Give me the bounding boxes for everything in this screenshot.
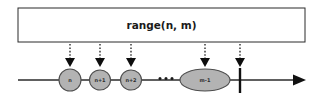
pointer-arrow-group xyxy=(65,44,245,67)
range-diagram: range(n, m) xyxy=(0,0,323,101)
pointer-arrow-m-minus-1 xyxy=(200,44,210,67)
pointer-arrowhead-icon xyxy=(235,58,245,67)
pointer-arrowhead-icon xyxy=(95,58,105,67)
ellipsis-dot xyxy=(171,77,174,80)
pointer-arrow-n xyxy=(65,44,75,67)
node-n: n xyxy=(59,69,81,91)
number-line-arrowhead-icon xyxy=(293,75,306,86)
range-box-label: range(n, m) xyxy=(126,19,196,31)
node-n-plus-1: n+1 xyxy=(90,70,111,90)
node-label: n+1 xyxy=(94,77,106,83)
pointer-arrow-n-plus-2 xyxy=(126,44,136,67)
pointer-arrowhead-icon xyxy=(65,58,75,67)
pointer-arrowhead-icon xyxy=(200,58,210,67)
pointer-arrow-m xyxy=(235,44,245,67)
ellipsis-dot xyxy=(159,77,162,80)
node-m-minus-1: m-1 xyxy=(180,69,230,91)
node-label: n xyxy=(68,77,72,83)
node-label: m-1 xyxy=(200,77,211,83)
diagram-canvas: range(n, m) xyxy=(0,0,323,101)
node-label: n+2 xyxy=(125,77,137,83)
pointer-arrowhead-icon xyxy=(126,58,136,67)
ellipsis-dot xyxy=(165,77,168,80)
ellipsis-marker xyxy=(159,77,174,80)
range-box: range(n, m) xyxy=(18,8,305,42)
node-n-plus-2: n+2 xyxy=(121,70,142,90)
pointer-arrow-n-plus-1 xyxy=(95,44,105,67)
